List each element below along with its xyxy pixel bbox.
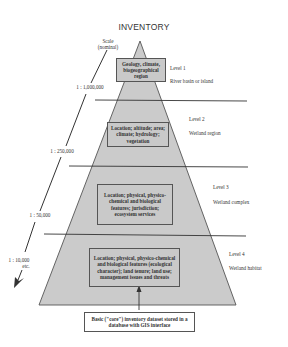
level-3-label: Level 3 bbox=[213, 184, 229, 190]
core-dataset-box: Basic ("core") inventory dataset stored … bbox=[84, 312, 195, 332]
level-4-label: Level 4 bbox=[229, 251, 245, 257]
level-1-box: Geology, climate, biogeographical region bbox=[116, 58, 166, 82]
level-3-unit: Wetland complex bbox=[213, 199, 249, 205]
scale-tick-etc: etc. bbox=[8, 263, 44, 269]
level-4-unit: Wetland habitat bbox=[229, 265, 262, 271]
level-4-box: Location; physical, physico-chemical and… bbox=[89, 248, 180, 287]
scale-heading: Scale (nominal) bbox=[88, 38, 128, 50]
level-3-box: Location; physical, physico-chemical and… bbox=[97, 184, 173, 225]
scale-tick-250k: 1 : 250,000 bbox=[42, 148, 82, 154]
diagram-title: INVENTORY bbox=[0, 22, 288, 32]
level-1-label: Level 1 bbox=[170, 65, 186, 71]
level-2-unit: Wetland region bbox=[189, 130, 221, 136]
scale-tick-1m: 1 : 1,000,000 bbox=[70, 84, 110, 90]
pyramid-diagram bbox=[0, 0, 288, 347]
level-1-unit: River basin or island bbox=[170, 78, 213, 84]
scale-tick-50k: 1 : 50,000 bbox=[20, 212, 60, 218]
scale-nominal-label: (nominal) bbox=[88, 44, 128, 50]
level-2-box: Location; altitude; area; climate; hydro… bbox=[107, 122, 169, 147]
level-2-label: Level 2 bbox=[189, 116, 205, 122]
